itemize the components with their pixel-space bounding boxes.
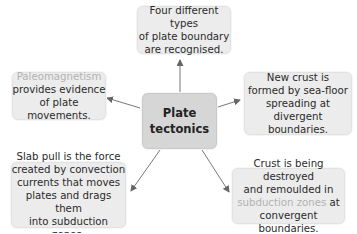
node-text: formed by sea-floor [244,84,352,97]
node-text: into subduction zones. [11,215,126,234]
node-text: are recognised. [137,43,231,56]
center-title: tectonics [150,121,209,137]
node-text: and remoulded in [232,183,345,196]
faded-term: Paleomagnetism [12,70,106,83]
node-crust-destroyed: Crust is being destroyed and remoulded i… [231,167,346,225]
node-text: convergent boundaries. [232,209,345,233]
node-text: of plate boundary [137,30,231,43]
node-text: currents that moves [11,176,126,189]
node-new-crust: New crust is formed by sea-floor spreadi… [243,71,353,136]
node-text: Slab pull is the force [11,150,126,163]
node-text: Four different types [137,4,231,30]
node-slab-pull: Slab pull is the force created by convec… [10,161,127,229]
node-text: of plate movements. [12,96,106,122]
node-text: Crust is being destroyed [232,157,345,183]
central-concept: Plate tectonics [141,92,218,150]
node-text: at [326,197,339,208]
node-text: New crust is [244,71,352,84]
node-text-mixed: subduction zones at [232,196,345,209]
node-text: boundaries. [244,123,352,136]
node-text: created by convection [11,163,126,176]
node-text: provides evidence [12,83,106,96]
node-text: plates and drags them [11,189,126,215]
center-title: Plate [150,105,209,121]
node-paleomagnetism: Paleomagnetism provides evidence of plat… [11,71,107,121]
faded-term: subduction zones [237,197,326,208]
node-plate-boundaries: Four different types of plate boundary a… [136,5,232,55]
node-text: spreading at divergent [244,97,352,123]
